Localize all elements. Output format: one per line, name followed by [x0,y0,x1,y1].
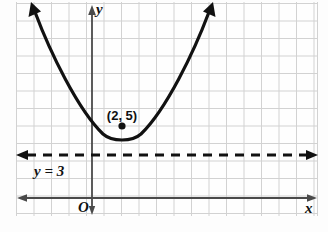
origin-label: O [78,199,89,215]
line-equation-label: y = 3 [32,163,65,179]
plotted-point-marker [118,122,125,129]
y-axis-label: y [94,1,103,17]
graph-figure: (2, 5) y = 3 y x O [0,0,328,232]
x-axis-label: x [304,200,313,216]
coordinate-plane-svg: (2, 5) y = 3 y x O [0,0,328,232]
point-label: (2, 5) [107,108,137,123]
